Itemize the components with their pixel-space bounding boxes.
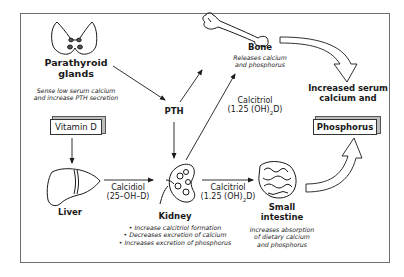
calcitriol-bone-label: Calcitriol (1.25 (OH)2D) xyxy=(220,96,290,116)
vitamin-d-box: Vitamin D xyxy=(50,119,102,135)
liver-label: Liver xyxy=(50,208,90,218)
kidney-effect-item: • Increases excretion of phosphorus xyxy=(100,239,250,246)
bone-label: Bone xyxy=(240,43,280,53)
small-intestine-label: Small intestine xyxy=(252,203,312,223)
bone-note: Releases calcium and phosphorus xyxy=(224,54,296,68)
intestine-icon xyxy=(259,162,296,199)
kidney-label: Kidney xyxy=(154,212,196,222)
parathyroid-icon xyxy=(52,22,97,54)
parathyroid-label: Parathyroid glands xyxy=(40,58,112,80)
pth-label: PTH xyxy=(160,107,188,117)
liver-icon xyxy=(47,169,100,206)
calcidiol-label: Calcidiol (25–OH–D) xyxy=(100,183,156,201)
kidney-effects-list: • Increase calcitriol formation • Decrea… xyxy=(100,224,250,246)
phosphorus-box: Phosphorus xyxy=(313,119,377,135)
arrow-pth-to-bone xyxy=(180,70,202,102)
kidney-effect-item: • Increase calcitriol formation xyxy=(100,224,250,231)
parathyroid-note: Sense low serum calcium and increase PTH… xyxy=(24,87,128,101)
calcitriol-intestine-label: Calcitriol (1.25 (OH)2D) xyxy=(196,183,260,203)
arrow-kidney-to-bone xyxy=(186,74,235,160)
small-intestine-note: Increases absorption of dietary calcium … xyxy=(240,226,324,248)
kidney-icon xyxy=(160,164,195,204)
kidney-effect-item: • Decreases excretion of calcium xyxy=(100,231,250,238)
outcome-label: Increased serum calcium and xyxy=(308,84,388,104)
hollow-arrow-intestine-to-outcome xyxy=(306,138,362,192)
